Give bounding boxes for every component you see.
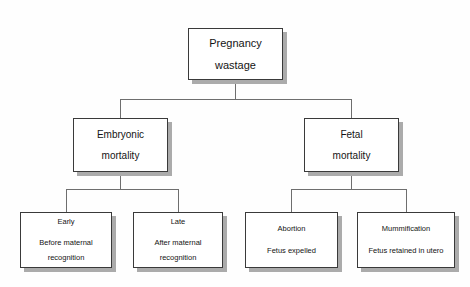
- connector-drop-embryonic: [120, 99, 121, 118]
- connector-drop-early: [66, 189, 67, 212]
- node-late[interactable]: Late After maternal recognition: [133, 212, 223, 268]
- node-mummification-title: Mummification: [382, 225, 430, 234]
- connector-drop-fetal: [351, 99, 352, 118]
- node-embryonic-mortality[interactable]: Embryonic mortality: [73, 118, 168, 172]
- node-embryonic-mortality-line1: Embryonic: [97, 129, 144, 141]
- connector-bus-level2: [120, 99, 351, 100]
- node-early-title: Early: [57, 218, 74, 227]
- node-late-sub2: recognition: [160, 254, 197, 263]
- node-abortion-sub1: Fetus expelled: [267, 247, 316, 256]
- connector-drop-abortion: [291, 189, 292, 212]
- node-abortion-title: Abortion: [278, 225, 306, 234]
- node-pregnancy-wastage-line2: wastage: [215, 59, 256, 72]
- node-pregnancy-wastage-line1: Pregnancy: [209, 37, 262, 50]
- node-embryonic-mortality-line2: mortality: [102, 150, 140, 162]
- node-fetal-mortality-line2: mortality: [333, 150, 371, 162]
- node-fetal-mortality[interactable]: Fetal mortality: [304, 118, 399, 172]
- connector-drop-mummification: [406, 189, 407, 212]
- node-mummification[interactable]: Mummification Fetus retained in utero: [357, 212, 455, 268]
- node-late-title: Late: [171, 218, 186, 227]
- node-pregnancy-wastage[interactable]: Pregnancy wastage: [188, 28, 283, 80]
- node-early-sub2: recognition: [48, 254, 85, 263]
- connector-bus-fetal-children: [291, 189, 406, 190]
- flowchart-canvas: Pregnancy wastage Embryonic mortality Fe…: [0, 0, 470, 287]
- node-late-sub1: After maternal: [154, 239, 201, 248]
- node-early[interactable]: Early Before maternal recognition: [20, 212, 112, 268]
- node-abortion[interactable]: Abortion Fetus expelled: [245, 212, 338, 268]
- node-mummification-sub1: Fetus retained in utero: [368, 247, 443, 256]
- node-early-sub1: Before maternal: [39, 239, 92, 248]
- node-fetal-mortality-line1: Fetal: [340, 129, 362, 141]
- connector-bus-embryonic-children: [66, 189, 178, 190]
- connector-drop-late: [178, 189, 179, 212]
